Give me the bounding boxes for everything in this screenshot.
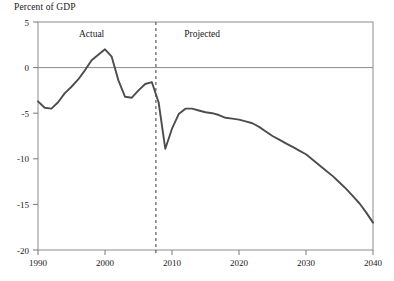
x-tick-label: 2000 [96,258,115,268]
deficit-line [38,49,373,222]
region-labels: Actual Projected [79,29,220,39]
y-tick-labels: 5 0 -5 -10 -15 -20 [17,18,30,256]
chart-canvas: 5 0 -5 -10 -15 -20 1990 2000 2010 2020 2… [0,0,394,281]
y-tick-label: -20 [17,246,29,256]
projected-region-label: Projected [184,29,220,39]
plot-border [38,22,373,250]
x-tick-label: 2020 [230,258,249,268]
data-series-group [38,49,373,222]
x-tick-label: 2010 [163,258,182,268]
x-tick-label: 2040 [364,258,383,268]
x-tick-labels: 1990 2000 2010 2020 2030 2040 [29,258,383,268]
y-axis-ticks [33,22,38,250]
y-tick-label: 5 [25,18,30,28]
y-tick-label: -15 [17,200,29,210]
y-tick-label: -5 [22,109,30,119]
actual-region-label: Actual [79,29,105,39]
y-tick-label: -10 [17,154,29,164]
x-axis-ticks [38,250,373,255]
chart-figure: Percent of GDP 5 0 -5 -10 -15 -20 [0,0,394,281]
x-tick-label: 2030 [297,258,316,268]
plot-frame [38,22,373,250]
x-tick-label: 1990 [29,258,48,268]
y-tick-label: 0 [25,63,30,73]
